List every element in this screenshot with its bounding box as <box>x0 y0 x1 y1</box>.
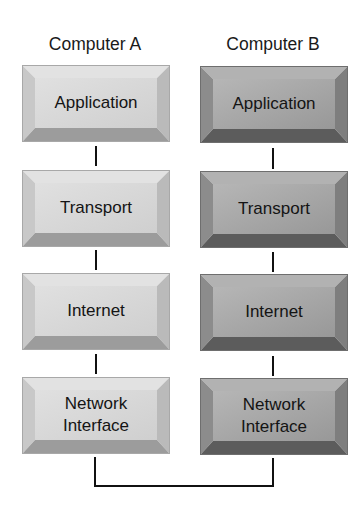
layer-label: Internet <box>245 301 303 323</box>
link-b-vertical <box>272 458 274 487</box>
computer-b-transport-layer: Transport <box>200 171 348 248</box>
layer-label: Internet <box>67 300 125 322</box>
computer-b-application-layer: Application <box>200 66 348 143</box>
connector-a-app-transport <box>95 146 97 166</box>
layer-label: Application <box>54 92 137 114</box>
computer-b-network-interface-layer: Network Interface <box>200 378 348 455</box>
connector-a-transport-internet <box>95 250 97 270</box>
connector-b-transport-internet <box>272 252 274 272</box>
connector-b-app-transport <box>272 148 274 169</box>
computer-a-title: Computer A <box>20 34 170 54</box>
computer-a-network-interface-layer: Network Interface <box>22 377 170 454</box>
layer-label: Transport <box>238 198 310 220</box>
computer-b-title: Computer B <box>198 34 348 54</box>
computer-a-internet-layer: Internet <box>22 273 170 350</box>
computer-b-internet-layer: Internet <box>200 274 348 351</box>
layer-label: Network Interface <box>63 393 129 437</box>
link-horizontal <box>94 485 274 487</box>
computer-a-transport-layer: Transport <box>22 170 170 247</box>
layer-label: Transport <box>60 197 132 219</box>
link-a-vertical <box>94 457 96 487</box>
layer-label: Network Interface <box>241 394 307 438</box>
computer-a-application-layer: Application <box>22 65 170 142</box>
connector-b-internet-network <box>272 356 274 376</box>
connector-a-internet-network <box>95 354 97 374</box>
layer-label: Application <box>232 93 315 115</box>
